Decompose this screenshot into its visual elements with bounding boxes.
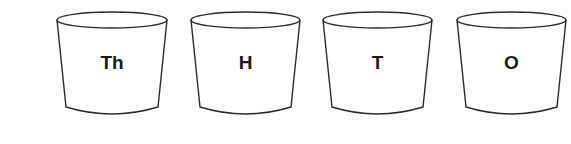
cup-label-tens: T [372,52,384,74]
cup-label-hundreds: H [239,52,253,74]
place-value-diagram [0,0,571,144]
cup-label-ones: O [504,52,519,74]
cup-label-thousands: Th [100,52,123,74]
